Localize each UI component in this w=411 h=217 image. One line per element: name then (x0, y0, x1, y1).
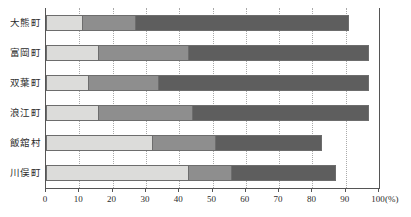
y-axis-label-4: 浪江町 (10, 105, 42, 121)
x-tick-label-30: 30 (140, 194, 149, 204)
x-tick-80 (311, 188, 312, 192)
x-tick-10 (78, 188, 79, 192)
stacked-bar-chart: 大熊町富岡町双葉町浪江町飯舘村川俣町 010203040506070809010… (0, 0, 411, 217)
x-tick-label-20: 20 (107, 194, 116, 204)
bar-segment-3[interactable] (216, 135, 323, 151)
bar-row (46, 135, 379, 151)
stacked-bar[interactable] (46, 165, 336, 181)
bar-segment-2[interactable] (189, 165, 232, 181)
bar-segment-3[interactable] (189, 45, 369, 61)
bar-segment-3[interactable] (136, 15, 349, 31)
x-tick-40 (178, 188, 179, 192)
bar-segment-1[interactable] (46, 15, 83, 31)
bar-segment-2[interactable] (99, 105, 192, 121)
y-axis-label-1: 大熊町 (10, 15, 42, 31)
x-tick-label-0: 0 (43, 194, 48, 204)
y-axis-label-3: 双葉町 (10, 75, 42, 91)
x-tick-label-70: 70 (274, 194, 283, 204)
stacked-bar[interactable] (46, 135, 322, 151)
x-axis-unit-label: (%) (385, 194, 399, 204)
y-axis-label-2: 富岡町 (10, 45, 42, 61)
x-tick-label-40: 40 (174, 194, 183, 204)
bar-segment-1[interactable] (46, 45, 99, 61)
y-axis-label-5: 飯舘村 (10, 135, 42, 151)
bar-segment-1[interactable] (46, 135, 153, 151)
plot-area (45, 8, 380, 189)
x-tick-label-100: 100 (371, 194, 385, 204)
y-axis-label-6: 川俣町 (10, 165, 42, 181)
bar-row (46, 105, 379, 121)
bar-row (46, 75, 379, 91)
bar-segment-2[interactable] (153, 135, 216, 151)
bar-segment-3[interactable] (193, 105, 369, 121)
bar-segment-2[interactable] (83, 15, 136, 31)
x-tick-label-50: 50 (207, 194, 216, 204)
x-tick-label-80: 80 (307, 194, 316, 204)
bar-segment-1[interactable] (46, 105, 99, 121)
y-axis-category-labels: 大熊町富岡町双葉町浪江町飯舘村川俣町 (0, 8, 43, 188)
bar-segment-2[interactable] (99, 45, 189, 61)
bar-rows (46, 8, 379, 188)
stacked-bar[interactable] (46, 105, 369, 121)
bar-row (46, 165, 379, 181)
x-tick-label-10: 10 (74, 194, 83, 204)
stacked-bar[interactable] (46, 45, 369, 61)
stacked-bar[interactable] (46, 75, 369, 91)
bar-row (46, 45, 379, 61)
x-tick-50 (212, 188, 213, 192)
stacked-bar[interactable] (46, 15, 349, 31)
x-tick-0 (45, 188, 46, 192)
x-tick-90 (345, 188, 346, 192)
x-tick-60 (245, 188, 246, 192)
x-axis-tick-labels: 0102030405060708090100 (0, 194, 411, 210)
x-tick-20 (112, 188, 113, 192)
bar-segment-1[interactable] (46, 165, 189, 181)
x-tick-30 (145, 188, 146, 192)
bar-segment-1[interactable] (46, 75, 89, 91)
bar-segment-2[interactable] (89, 75, 159, 91)
bar-row (46, 15, 379, 31)
x-tick-100 (378, 188, 379, 192)
bar-segment-3[interactable] (232, 165, 335, 181)
x-tick-label-60: 60 (240, 194, 249, 204)
x-tick-label-90: 90 (340, 194, 349, 204)
x-tick-70 (278, 188, 279, 192)
bar-segment-3[interactable] (159, 75, 369, 91)
